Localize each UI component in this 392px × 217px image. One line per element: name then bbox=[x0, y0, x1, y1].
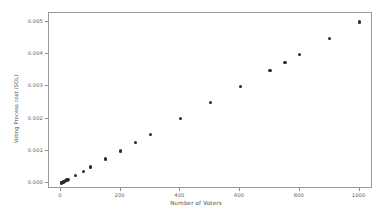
x-tick-mark bbox=[120, 188, 121, 191]
plot-area bbox=[48, 12, 372, 188]
y-tick-label: 0.003 bbox=[28, 82, 43, 88]
y-tick-mark bbox=[45, 182, 48, 183]
y-axis-title: Voting Process cost (SOL) bbox=[13, 74, 19, 143]
y-axis-title-wrap: Voting Process cost (SOL) bbox=[10, 0, 22, 217]
x-tick-mark bbox=[359, 188, 360, 191]
x-tick-label: 1000 bbox=[352, 192, 366, 198]
data-point bbox=[268, 69, 271, 72]
data-point bbox=[89, 165, 92, 168]
data-point bbox=[358, 20, 361, 23]
data-point bbox=[209, 101, 212, 104]
x-tick-mark bbox=[179, 188, 180, 191]
y-tick-label: 0.001 bbox=[28, 147, 43, 153]
y-tick-label: 0.002 bbox=[28, 115, 43, 121]
data-point bbox=[74, 174, 77, 177]
x-tick-mark bbox=[60, 188, 61, 191]
scatter-points-layer bbox=[49, 13, 371, 187]
data-point bbox=[298, 53, 301, 56]
data-point bbox=[134, 141, 137, 144]
y-tick-mark bbox=[45, 53, 48, 54]
x-tick-label: 0 bbox=[58, 192, 61, 198]
y-tick-mark bbox=[45, 150, 48, 151]
y-tick-mark bbox=[45, 118, 48, 119]
x-tick-mark bbox=[239, 188, 240, 191]
x-tick-label: 800 bbox=[294, 192, 304, 198]
x-tick-mark bbox=[299, 188, 300, 191]
x-tick-label: 200 bbox=[115, 192, 125, 198]
data-point bbox=[239, 85, 242, 88]
data-point bbox=[67, 178, 70, 181]
data-point bbox=[149, 133, 152, 136]
data-point bbox=[119, 149, 122, 152]
data-point bbox=[82, 170, 85, 173]
data-point bbox=[104, 157, 107, 160]
y-tick-label: 0.004 bbox=[28, 50, 43, 56]
y-tick-mark bbox=[45, 21, 48, 22]
chart-figure: 02004006008001000 0.0000.0010.0020.0030.… bbox=[0, 0, 392, 217]
y-tick-label: 0.005 bbox=[28, 18, 43, 24]
x-tick-label: 400 bbox=[174, 192, 184, 198]
data-point bbox=[283, 61, 286, 64]
y-tick-label: 0.000 bbox=[28, 179, 43, 185]
y-tick-mark bbox=[45, 85, 48, 86]
data-point bbox=[179, 117, 182, 120]
x-tick-label: 600 bbox=[234, 192, 244, 198]
x-axis-title: Number of Voters bbox=[0, 200, 392, 206]
data-point bbox=[328, 37, 331, 40]
